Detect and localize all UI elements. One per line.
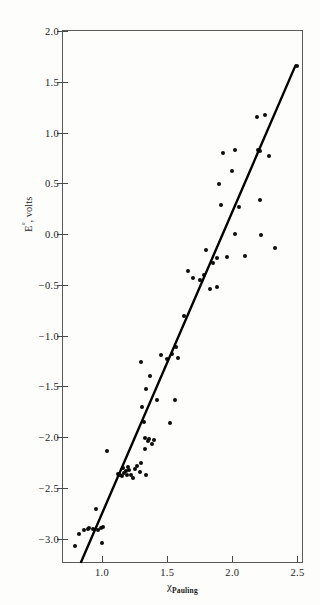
x-tick-label: 2.0 xyxy=(225,567,239,578)
y-tick-label: −1.0 xyxy=(39,330,59,341)
degree-symbol: ° xyxy=(20,222,29,225)
y-axis-label: E°, volts xyxy=(20,197,34,232)
y-tick-label: −2.0 xyxy=(39,432,59,443)
y-tick-label: −3.0 xyxy=(39,533,59,544)
y-tick-label: −1.5 xyxy=(39,381,59,392)
x-axis-label-text: χPauling xyxy=(167,580,198,592)
y-tick-label: 0.0 xyxy=(45,229,59,240)
y-tick-label: −2.5 xyxy=(39,482,59,493)
y-tick-label: −0.5 xyxy=(39,279,59,290)
x-tick-label: 1.5 xyxy=(160,567,174,578)
y-axis-label-text: E°, volts xyxy=(23,197,34,232)
regression-line xyxy=(81,65,295,562)
plot-area: 2.01.51.00.50.0−0.5−1.0−1.5−2.0−2.5−3.0 … xyxy=(62,30,303,563)
figure: E°, volts 2.01.51.00.50.0−0.5−1.0−1.5−2.… xyxy=(0,0,320,605)
fit-line-svg xyxy=(63,31,302,562)
y-tick-label: 0.5 xyxy=(45,178,59,189)
x-axis-label: χPauling xyxy=(62,580,303,595)
y-tick-label: 2.0 xyxy=(45,26,59,37)
y-tick-label: 1.5 xyxy=(45,76,59,87)
x-tick-label: 2.5 xyxy=(290,567,304,578)
y-tick-label: 1.0 xyxy=(45,127,59,138)
x-axis-label-subscript: Pauling xyxy=(172,586,198,595)
x-tick-label: 1.0 xyxy=(95,567,109,578)
